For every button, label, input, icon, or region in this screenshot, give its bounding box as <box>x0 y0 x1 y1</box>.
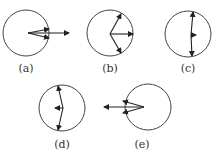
panel-b: (b) <box>87 10 133 75</box>
vector-e-upper <box>123 101 144 107</box>
vector-c-up <box>191 12 193 35</box>
panel-c: (c) <box>165 11 211 75</box>
vector-c-down <box>191 35 192 56</box>
vector-e-lower <box>123 107 144 113</box>
label-e: (e) <box>134 138 149 151</box>
label-c: (c) <box>181 62 196 75</box>
vector-b-up <box>110 14 121 34</box>
vector-diagram: (a) (b) (c) (d) (e) <box>0 0 217 153</box>
vector-a-lower <box>28 33 49 38</box>
panel-e: (e) <box>104 84 171 151</box>
vector-d-down <box>58 108 63 130</box>
label-b: (b) <box>102 62 118 75</box>
label-a: (a) <box>18 62 33 75</box>
panel-a: (a) <box>3 10 69 75</box>
vector-a-upper <box>28 29 49 33</box>
label-d: (d) <box>54 138 70 151</box>
vector-d-up <box>58 86 63 108</box>
vector-b-down <box>110 34 121 53</box>
panel-d: (d) <box>39 85 85 151</box>
circle-c <box>165 11 211 57</box>
